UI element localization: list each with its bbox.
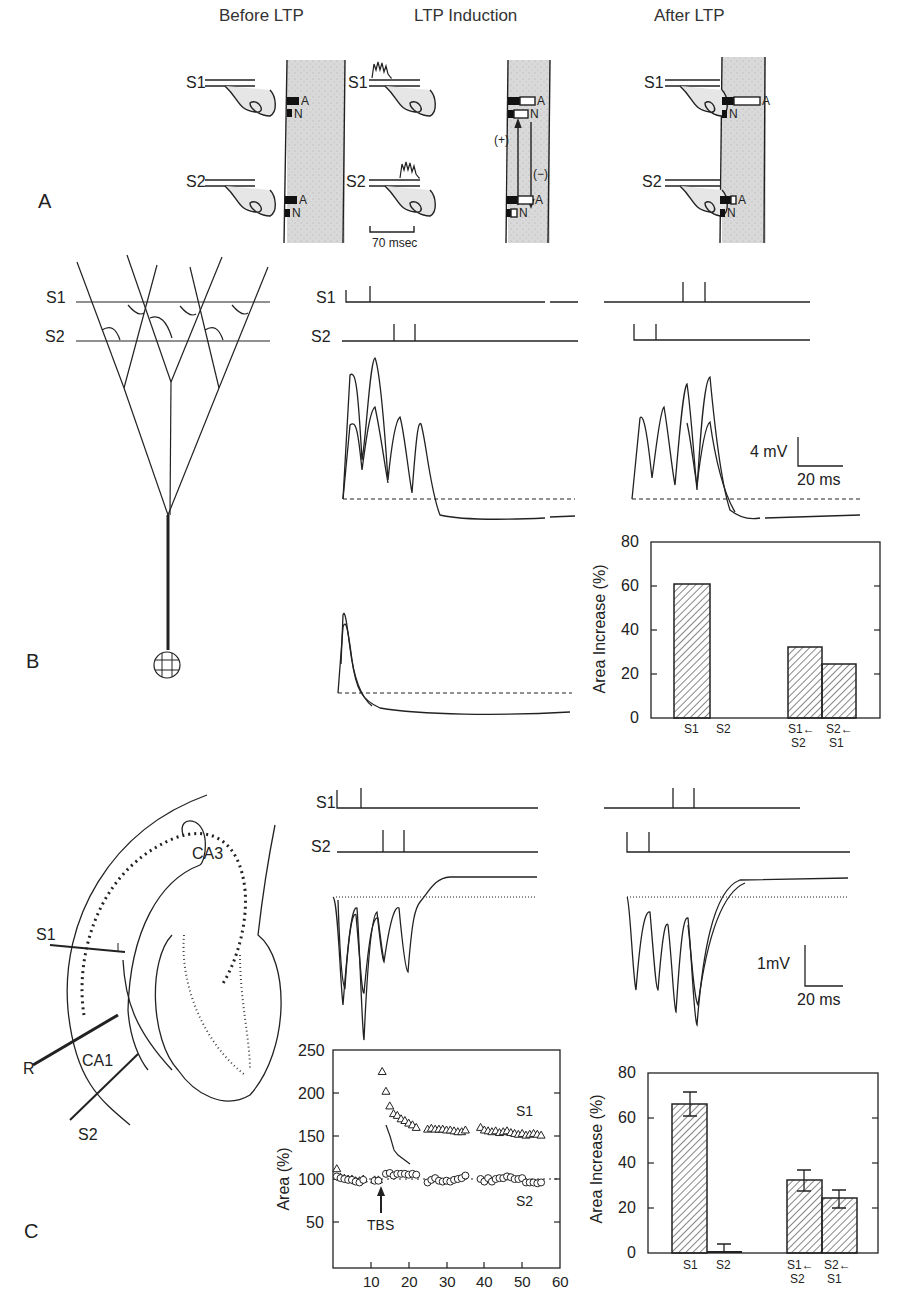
label-s2: S2 bbox=[346, 173, 366, 191]
neuron-label-s2: S2 bbox=[45, 328, 65, 346]
panel-a-title-induction: LTP Induction bbox=[414, 6, 517, 26]
y-axis-label: Area (%) bbox=[275, 1147, 293, 1210]
data-point-s1 bbox=[382, 1087, 390, 1094]
ytick: 200 bbox=[298, 1085, 325, 1103]
panel-c-traces bbox=[333, 788, 850, 1040]
receptor-n: N bbox=[727, 206, 736, 220]
x-category: S2 bbox=[790, 1272, 805, 1286]
xtick: 60 bbox=[552, 1273, 569, 1290]
ytick: 150 bbox=[298, 1128, 325, 1146]
slice-label-ca3: CA3 bbox=[192, 845, 223, 863]
series-label-s2: S2 bbox=[516, 1193, 533, 1209]
panel-letter-b: B bbox=[26, 650, 39, 673]
scale-time: 20 ms bbox=[797, 471, 841, 489]
x-category: S1 bbox=[829, 736, 844, 750]
xtick: 20 bbox=[401, 1273, 418, 1290]
tbs-annotation: TBS bbox=[367, 1217, 394, 1233]
scale-70msec: 70 msec bbox=[372, 236, 417, 250]
x-category: S2← bbox=[824, 1258, 851, 1272]
trace-label-s1: S1 bbox=[316, 289, 336, 307]
receptor-a: A bbox=[762, 94, 770, 108]
scale-time: 20 ms bbox=[797, 991, 841, 1009]
series-label-s1: S1 bbox=[516, 1103, 533, 1119]
scale-voltage: 1mV bbox=[757, 955, 790, 973]
data-point-s2 bbox=[360, 1176, 367, 1183]
panel-c-scatter-chart bbox=[333, 1050, 560, 1268]
label-s1: S1 bbox=[644, 74, 664, 92]
panel-a-diagram bbox=[205, 57, 766, 243]
receptor-a: A bbox=[738, 193, 746, 207]
trace-label-s2: S2 bbox=[311, 838, 331, 856]
data-point-s1 bbox=[333, 1165, 341, 1172]
ytick: 40 bbox=[621, 621, 639, 639]
xtick: 10 bbox=[363, 1273, 380, 1290]
ytick: 60 bbox=[621, 577, 639, 595]
data-point-s1 bbox=[378, 1068, 386, 1075]
x-category: S2 bbox=[716, 1258, 731, 1272]
ytick: 80 bbox=[618, 1064, 636, 1082]
slice-label-r: R bbox=[23, 1060, 35, 1078]
arrow-minus-label: (−) bbox=[533, 167, 548, 181]
ytick: 250 bbox=[298, 1042, 325, 1060]
receptor-n: N bbox=[519, 206, 528, 220]
ytick: 0 bbox=[630, 709, 639, 727]
x-category: S1← bbox=[787, 1258, 814, 1272]
label-s2: S2 bbox=[186, 173, 206, 191]
x-category: S2 bbox=[716, 722, 731, 736]
slice-label-s1: S1 bbox=[36, 926, 56, 944]
receptor-a: A bbox=[537, 94, 545, 108]
ytick: 20 bbox=[621, 665, 639, 683]
panel-c-bar-chart bbox=[648, 1073, 878, 1253]
arrow-plus-label: (+) bbox=[494, 133, 509, 147]
receptor-a: A bbox=[301, 94, 309, 108]
panel-letter-a: A bbox=[38, 190, 51, 213]
ytick: 0 bbox=[627, 1244, 636, 1262]
ytick: 60 bbox=[618, 1109, 636, 1127]
label-s1: S1 bbox=[186, 74, 206, 92]
slice-label-s2: S2 bbox=[78, 1126, 98, 1144]
receptor-n: N bbox=[530, 107, 539, 121]
data-point-s2 bbox=[462, 1172, 469, 1179]
data-point-s2 bbox=[375, 1177, 382, 1184]
y-axis-label: Area Increase (%) bbox=[591, 565, 609, 694]
figure-canvas bbox=[0, 0, 906, 1308]
pyramidal-neuron-diagram bbox=[76, 255, 270, 678]
neuron-label-s1: S1 bbox=[46, 289, 66, 307]
panel-a-title-after: After LTP bbox=[654, 6, 725, 26]
panel-a-title-before: Before LTP bbox=[219, 6, 304, 26]
xtick: 30 bbox=[439, 1273, 456, 1290]
ytick: 80 bbox=[621, 533, 639, 551]
panel-b-bar-chart bbox=[651, 542, 880, 718]
receptor-n: N bbox=[292, 206, 301, 220]
data-point-s1 bbox=[386, 1102, 394, 1109]
x-category: S2 bbox=[791, 736, 806, 750]
trace-label-s1: S1 bbox=[316, 794, 336, 812]
trace-label-s2: S2 bbox=[311, 328, 331, 346]
hippocampal-slice-diagram bbox=[33, 795, 281, 1125]
panel-letter-c: C bbox=[24, 1220, 38, 1243]
data-point-s2 bbox=[413, 1171, 420, 1178]
x-category: S1 bbox=[684, 722, 699, 736]
receptor-n: N bbox=[729, 107, 738, 121]
ytick: 100 bbox=[298, 1171, 325, 1189]
receptor-a: A bbox=[299, 193, 307, 207]
ytick: 20 bbox=[618, 1199, 636, 1217]
y-axis-label: Area Increase (%) bbox=[588, 1095, 606, 1224]
scale-voltage: 4 mV bbox=[750, 443, 787, 461]
receptor-n: N bbox=[294, 107, 303, 121]
x-category: S2← bbox=[826, 722, 853, 736]
data-point-s2 bbox=[538, 1179, 545, 1186]
slice-label-ca1: CA1 bbox=[82, 1052, 113, 1070]
ytick: 40 bbox=[618, 1154, 636, 1172]
x-category: S1← bbox=[788, 722, 815, 736]
xtick: 40 bbox=[476, 1273, 493, 1290]
ytick: 50 bbox=[306, 1214, 324, 1232]
receptor-a: A bbox=[535, 193, 543, 207]
xtick: 50 bbox=[514, 1273, 531, 1290]
label-s1: S1 bbox=[348, 74, 368, 92]
label-s2: S2 bbox=[642, 173, 662, 191]
x-category: S1 bbox=[683, 1258, 698, 1272]
x-category: S1 bbox=[827, 1272, 842, 1286]
